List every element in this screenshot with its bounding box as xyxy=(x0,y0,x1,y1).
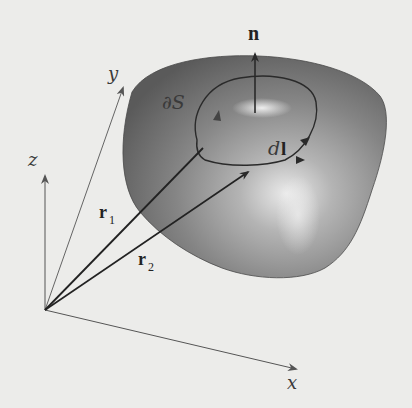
y-axis xyxy=(45,88,123,310)
svg-text:r: r xyxy=(138,249,146,269)
surface-highlight xyxy=(232,98,292,118)
svg-text:r: r xyxy=(99,202,107,222)
z-axis-label: z xyxy=(27,149,38,170)
line-element-label: d l xyxy=(268,137,286,159)
svg-text:2: 2 xyxy=(148,260,154,274)
svg-text:1: 1 xyxy=(109,213,115,227)
svg-text:d: d xyxy=(268,137,280,159)
y-axis-label: y xyxy=(107,63,119,84)
x-axis-label: x xyxy=(287,372,297,393)
surface-diagram: n ∂S d l r 1 r 2 x y z xyxy=(0,0,412,408)
normal-label: n xyxy=(248,22,259,44)
svg-text:l: l xyxy=(281,138,286,159)
r2-label: r 2 xyxy=(138,249,154,274)
boundary-label: ∂S xyxy=(162,91,185,113)
x-axis xyxy=(45,310,296,369)
r1-label: r 1 xyxy=(99,202,115,227)
surface-highlight-lower xyxy=(276,175,320,255)
